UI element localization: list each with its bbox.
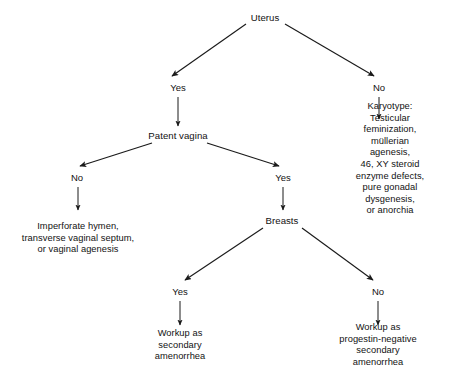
node-karyotype-outcome: Karyotype: Testicular feminization, müll…: [352, 101, 428, 217]
node-imperforate-hymen-outcome: Imperforate hymen, transverse vaginal se…: [22, 221, 134, 256]
node-workup-secondary-amenorrhea: Workup as secondary amenorrhea: [155, 328, 206, 363]
edge-breasts-to-no: [302, 228, 373, 280]
edge-breasts-to-yes: [185, 228, 263, 280]
node-breasts: Breasts: [266, 215, 299, 226]
branch-label-breasts-no: No: [372, 286, 384, 297]
edge-uterus-to-yes: [172, 24, 246, 76]
branch-label-vagina-yes: Yes: [275, 172, 291, 183]
flowchart-canvas: Uterus Yes No Patent vagina Karyotype: T…: [0, 0, 466, 380]
node-workup-progestin-negative-amenorrhea: Workup as progestin-negative secondary a…: [334, 322, 422, 368]
edge-patent-vagina-to-no: [80, 143, 152, 166]
node-patent-vagina: Patent vagina: [148, 130, 207, 141]
edge-patent-vagina-to-yes: [207, 143, 279, 166]
branch-label-breasts-yes: Yes: [172, 286, 188, 297]
branch-label-vagina-no: No: [71, 172, 83, 183]
branch-label-uterus-no: No: [373, 82, 385, 93]
branch-label-uterus-yes: Yes: [170, 82, 186, 93]
node-uterus: Uterus: [251, 12, 280, 23]
edge-uterus-to-no: [285, 24, 374, 76]
